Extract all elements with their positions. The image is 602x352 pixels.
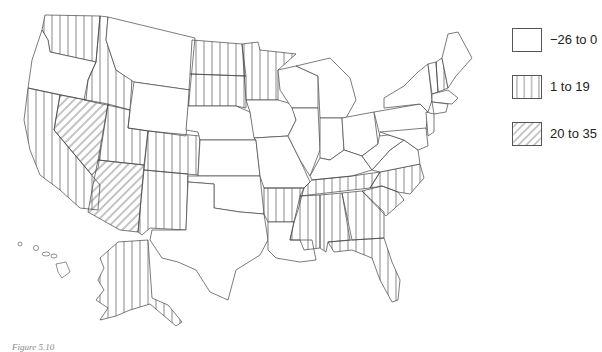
- legend-swatch-diagonal: [512, 122, 542, 146]
- legend-label: −26 to 0: [550, 32, 597, 47]
- state-iowa: [246, 100, 296, 138]
- legend-swatch-blank: [512, 28, 542, 52]
- state-hawaii: [18, 242, 70, 278]
- state-arizona: [88, 160, 144, 232]
- legend-label: 1 to 19: [550, 79, 590, 94]
- state-connecticut: [432, 102, 448, 114]
- state-colorado: [144, 131, 200, 175]
- state-kansas: [198, 140, 260, 176]
- figure-caption: Figure 5.10: [12, 342, 54, 352]
- state-florida: [328, 238, 400, 302]
- state-north-dakota: [190, 40, 246, 76]
- state-new-york: [384, 64, 432, 112]
- legend-item-negative: −26 to 0: [512, 28, 602, 54]
- state-wyoming: [128, 82, 190, 136]
- legend-swatch-vertical: [512, 75, 542, 99]
- state-south-dakota: [188, 74, 246, 108]
- legend-item-low: 1 to 19: [512, 75, 602, 101]
- state-nebraska: [186, 106, 256, 140]
- legend-label: 20 to 35: [550, 126, 597, 141]
- legend-item-high: 20 to 35: [512, 122, 602, 148]
- state-maine: [442, 32, 472, 88]
- state-new-jersey: [426, 112, 434, 136]
- state-new-mexico: [138, 170, 188, 235]
